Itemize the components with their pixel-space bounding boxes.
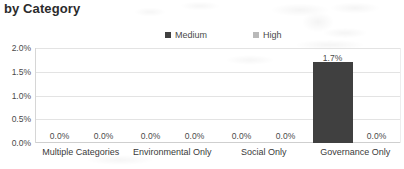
bar-slot: 0.0% xyxy=(129,48,173,143)
chart-legend: Medium High xyxy=(165,28,282,41)
legend-item-high[interactable]: High xyxy=(253,30,282,40)
legend-swatch-medium xyxy=(165,32,171,38)
legend-item-medium[interactable]: Medium xyxy=(165,30,207,40)
bar-slot: 0.0% xyxy=(220,48,264,143)
legend-label-medium: Medium xyxy=(175,30,207,40)
x-category-label: Governance Only xyxy=(310,147,402,157)
chart-title: by Category xyxy=(4,1,80,16)
y-tick-label: 1.5% xyxy=(12,67,31,77)
bar-value-label: 0.0% xyxy=(50,131,69,141)
bar-value-label: 0.0% xyxy=(141,131,160,141)
y-tick-label: 0.0% xyxy=(12,138,31,148)
bar-group: 1.7%0.0% xyxy=(309,48,400,143)
bar-slot: 0.0% xyxy=(355,48,399,143)
plot-area: 0.0%0.5%1.0%1.5%2.0% 0.0%0.0%0.0%0.0%0.0… xyxy=(35,48,401,143)
y-tick-label: 1.0% xyxy=(12,91,31,101)
legend-label-high: High xyxy=(263,30,282,40)
bar-slot: 0.0% xyxy=(38,48,82,143)
bar-slot: 0.0% xyxy=(82,48,126,143)
bar-group: 0.0%0.0% xyxy=(127,48,218,143)
bar-value-label: 0.0% xyxy=(232,131,251,141)
x-category-label: Social Only xyxy=(218,147,310,157)
y-tick-label: 0.5% xyxy=(12,114,31,124)
bar-slot: 0.0% xyxy=(264,48,308,143)
bar-value-label: 1.7% xyxy=(323,53,342,63)
x-category-label: Multiple Categories xyxy=(35,147,127,157)
bar-slot: 1.7% xyxy=(311,48,355,143)
x-category-label: Environmental Only xyxy=(127,147,219,157)
bar-value-label: 0.0% xyxy=(94,131,113,141)
bar-group: 0.0%0.0% xyxy=(36,48,127,143)
x-axis-category-labels: Multiple CategoriesEnvironmental OnlySoc… xyxy=(35,147,401,157)
bar-group: 0.0%0.0% xyxy=(218,48,309,143)
bar-value-label: 0.0% xyxy=(367,131,386,141)
y-tick-label: 2.0% xyxy=(12,43,31,53)
bar-value-label: 0.0% xyxy=(185,131,204,141)
chart-figure: by Category Medium High 0.0%0.5%1.0%1.5%… xyxy=(0,0,404,169)
bar-medium-governance-only[interactable] xyxy=(313,62,353,143)
bar-groups: 0.0%0.0%0.0%0.0%0.0%0.0%1.7%0.0% xyxy=(36,48,400,143)
legend-swatch-high xyxy=(253,32,259,38)
bar-value-label: 0.0% xyxy=(276,131,295,141)
bar-slot: 0.0% xyxy=(173,48,217,143)
